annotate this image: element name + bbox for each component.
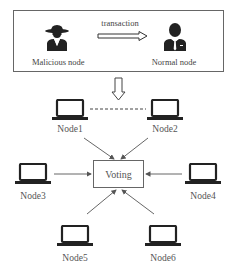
node2-label: Node2 [140,124,190,134]
node5-label: Node5 [50,253,100,263]
node2-laptop-icon [146,99,184,121]
voting-label: Voting [105,169,132,180]
node1-label: Node1 [45,124,95,134]
node4-label: Node4 [178,191,228,201]
node6-laptop-icon [144,225,182,247]
voting-box: Voting [93,160,144,188]
node5-laptop-icon [56,225,94,247]
node1-laptop-icon [51,99,89,121]
node6-label: Node6 [138,253,188,263]
connector-layer [0,0,234,271]
node3-laptop-icon [14,163,52,185]
node4-laptop-icon [184,163,222,185]
node3-label: Node3 [8,191,58,201]
